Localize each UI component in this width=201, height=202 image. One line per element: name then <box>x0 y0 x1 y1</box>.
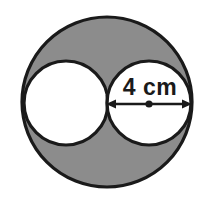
center-dot <box>145 100 152 107</box>
geometry-diagram: 4 cm <box>0 0 201 202</box>
left-inner-circle <box>24 61 108 145</box>
dimension-label: 4 cm <box>123 74 177 100</box>
geometry-figure: 4 cm <box>0 0 201 202</box>
